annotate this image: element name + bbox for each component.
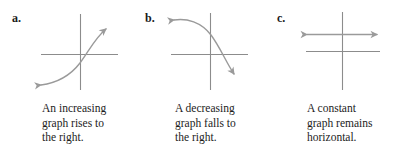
panel-a-graph — [0, 4, 133, 100]
panel-a-caption-line-3: the right. — [42, 130, 134, 145]
panel-b-caption: A decreasing graph falls to the right. — [175, 101, 267, 145]
panel-c: c. A constant g — [265, 0, 398, 152]
panel-b: b. A decreasing — [133, 0, 266, 152]
panel-b-caption-line-1: A decreasing — [175, 101, 267, 116]
figure-page: a. An increasing — [0, 0, 398, 152]
panel-b-decreasing-curve — [174, 20, 234, 74]
panel-b-graph — [133, 4, 266, 100]
panel-a-caption: An increasing graph rises to the right. — [42, 101, 134, 145]
panel-b-caption-line-3: the right. — [175, 130, 267, 145]
panel-c-caption: A constant graph remains horizontal. — [307, 101, 398, 145]
panel-a-caption-line-2: graph rises to — [42, 116, 134, 131]
panel-a-increasing-curve — [41, 29, 106, 85]
panel-c-caption-line-3: horizontal. — [307, 130, 398, 145]
panel-c-caption-line-2: graph remains — [307, 116, 398, 131]
panel-b-caption-line-2: graph falls to — [175, 116, 267, 131]
panel-c-graph — [265, 4, 398, 100]
panel-c-caption-line-1: A constant — [307, 101, 398, 116]
panel-a-caption-line-1: An increasing — [42, 101, 134, 116]
panel-a: a. An increasing — [0, 0, 133, 152]
